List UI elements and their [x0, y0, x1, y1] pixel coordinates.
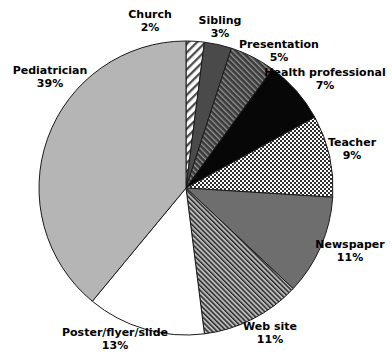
slice-label-newspaper-name: Newspaper: [310, 238, 390, 251]
slice-label-church: Church 2%: [108, 8, 192, 34]
slice-label-teacher: Teacher 9%: [318, 136, 386, 162]
slice-label-health-professional: Health professional 7%: [258, 66, 392, 92]
slice-label-web-site-value: 11%: [234, 333, 306, 346]
slice-label-presentation-name: Presentation: [226, 38, 332, 51]
slice-label-sibling-name: Sibling: [182, 14, 258, 27]
slice-label-health-professional-value: 7%: [258, 79, 392, 92]
slice-label-pediatrician-name: Pediatrician: [7, 64, 93, 77]
slice-label-poster-flyer-slide-value: 13%: [53, 339, 177, 352]
slice-label-presentation: Presentation 5%: [226, 38, 332, 64]
pie-chart: Church 2% Sibling 3% Presentation 5% Hea…: [0, 0, 392, 362]
slice-label-presentation-value: 5%: [226, 51, 332, 64]
slice-label-poster-flyer-slide-name: Poster/flyer/slide: [53, 326, 177, 339]
slice-label-health-professional-name: Health professional: [258, 66, 392, 79]
slice-label-church-name: Church: [108, 8, 192, 21]
slice-label-web-site: Web site 11%: [234, 320, 306, 346]
slice-label-sibling: Sibling 3%: [182, 14, 258, 40]
slice-label-newspaper-value: 11%: [310, 251, 390, 264]
pie-svg: [0, 0, 392, 362]
slice-label-pediatrician: Pediatrician 39%: [7, 64, 93, 90]
slice-label-church-value: 2%: [108, 21, 192, 34]
slice-label-teacher-name: Teacher: [318, 136, 386, 149]
slice-label-poster-flyer-slide: Poster/flyer/slide 13%: [53, 326, 177, 352]
slice-label-web-site-name: Web site: [234, 320, 306, 333]
slice-label-pediatrician-value: 39%: [7, 77, 93, 90]
slice-label-teacher-value: 9%: [318, 149, 386, 162]
slice-label-newspaper: Newspaper 11%: [310, 238, 390, 264]
